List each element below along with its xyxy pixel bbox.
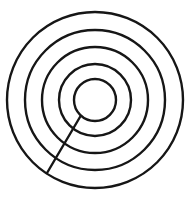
concentric-circles-figure — [0, 0, 190, 203]
diagram-canvas — [0, 0, 190, 203]
